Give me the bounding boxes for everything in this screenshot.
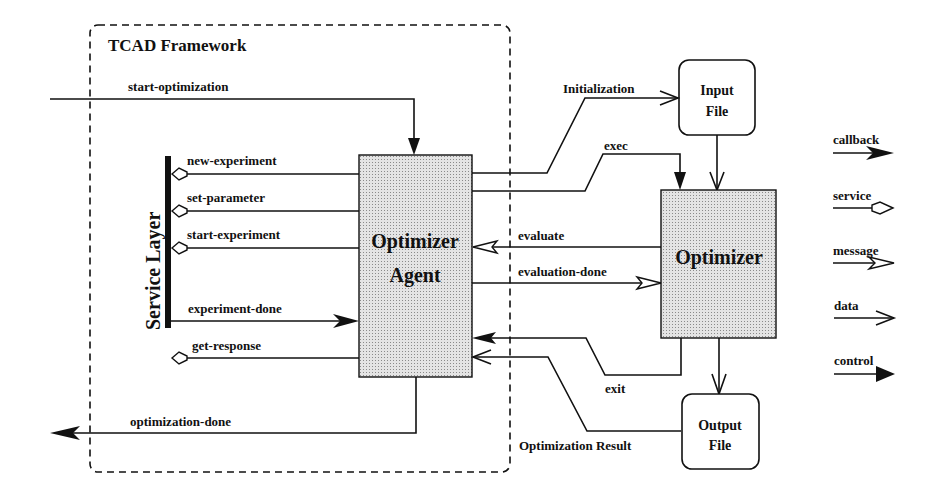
evaluate-label: evaluate bbox=[518, 228, 564, 243]
experiment-done-label: experiment-done bbox=[188, 301, 282, 316]
set-parameter-label: set-parameter bbox=[187, 190, 265, 205]
get-response-label: get-response bbox=[192, 338, 261, 353]
start-experiment-arrow bbox=[172, 242, 359, 254]
optimization-result-arrow bbox=[473, 350, 681, 431]
service-arrowhead-icon bbox=[172, 352, 187, 364]
service-arrowhead-icon bbox=[172, 242, 187, 254]
control-arrowhead-icon bbox=[674, 172, 686, 190]
new-experiment-arrow bbox=[172, 168, 359, 180]
set-parameter-arrow bbox=[172, 205, 359, 217]
service-layer-label: Service Layer bbox=[142, 212, 165, 330]
input-file-label-line1: Input bbox=[700, 83, 734, 98]
experiment-done-arrow bbox=[171, 314, 359, 328]
optimization-done-arrow bbox=[50, 377, 416, 440]
input-file-label-line2: File bbox=[706, 104, 729, 119]
optimizer-agent-label-line1: Optimizer bbox=[371, 230, 459, 253]
initialization-arrow bbox=[472, 91, 678, 173]
legend-service-label: service bbox=[833, 188, 871, 203]
legend-control-label: control bbox=[834, 353, 874, 368]
exit-label: exit bbox=[605, 381, 626, 396]
control-arrowhead-icon bbox=[408, 138, 420, 155]
evaluate-arrow bbox=[473, 241, 661, 253]
service-arrowhead-icon bbox=[172, 168, 187, 180]
legend: callback service message data control bbox=[833, 132, 895, 382]
input-data-arrow bbox=[710, 135, 724, 190]
optimization-result-label: Optimization Result bbox=[519, 438, 632, 453]
service-arrowhead-icon bbox=[172, 205, 187, 217]
service-arrowhead-icon bbox=[872, 202, 893, 214]
start-optimization-label: start-optimization bbox=[128, 79, 229, 94]
evaluation-done-label: evaluation-done bbox=[518, 264, 607, 279]
optimization-done-label: optimization-done bbox=[130, 414, 231, 429]
exit-arrow bbox=[472, 332, 681, 375]
optimizer-label: Optimizer bbox=[675, 246, 763, 269]
start-optimization-arrow bbox=[50, 99, 420, 155]
new-experiment-label: new-experiment bbox=[187, 153, 277, 168]
tcad-architecture-diagram: TCAD Framework start-optimization Servic… bbox=[0, 0, 939, 499]
initialization-label: Initialization bbox=[563, 81, 635, 96]
exec-label: exec bbox=[604, 138, 628, 153]
service-layer-bar bbox=[165, 156, 171, 328]
start-experiment-label: start-experiment bbox=[187, 227, 281, 242]
optimizer-agent-label-line2: Agent bbox=[389, 264, 440, 287]
output-file-label-line2: File bbox=[709, 438, 732, 453]
legend-callback-label: callback bbox=[833, 132, 880, 147]
control-arrowhead-icon bbox=[876, 366, 895, 382]
framework-title: TCAD Framework bbox=[108, 36, 247, 55]
legend-data-label: data bbox=[834, 298, 859, 313]
legend-message-label: message bbox=[833, 243, 879, 258]
output-data-arrow bbox=[712, 338, 726, 394]
output-file-label-line1: Output bbox=[698, 418, 742, 433]
get-response-arrow bbox=[172, 352, 359, 364]
